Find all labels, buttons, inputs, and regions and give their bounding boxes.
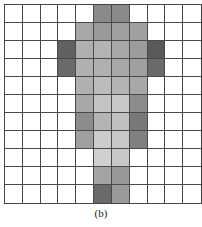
grid-cell <box>112 23 130 41</box>
grid-cell <box>165 185 183 203</box>
grid-cell <box>76 113 94 131</box>
grid-cell <box>41 131 59 149</box>
grid-cell <box>94 5 112 23</box>
grid-cell <box>41 5 59 23</box>
grid-cell <box>41 149 59 167</box>
grid-cell <box>130 5 148 23</box>
grid-cell <box>112 167 130 185</box>
grid-cell <box>5 185 23 203</box>
grid-cell <box>148 5 166 23</box>
grid-cell <box>58 77 76 95</box>
grid-cell <box>183 59 201 77</box>
grid-cell <box>183 131 201 149</box>
grid-cell <box>23 167 41 185</box>
grid-cell <box>165 77 183 95</box>
grid-cell <box>183 113 201 131</box>
grid-cell <box>5 95 23 113</box>
grid-cell <box>148 185 166 203</box>
grid-cell <box>76 185 94 203</box>
grid-cell <box>112 113 130 131</box>
grid-cell <box>165 5 183 23</box>
grid-cell <box>5 5 23 23</box>
grid-cell <box>23 131 41 149</box>
grid-cell <box>58 185 76 203</box>
grid-cell <box>183 5 201 23</box>
grid-cell <box>148 23 166 41</box>
grid-cell <box>94 23 112 41</box>
grid-cell <box>112 131 130 149</box>
grid-cell <box>148 59 166 77</box>
grid-cell <box>112 185 130 203</box>
grid-cell <box>183 185 201 203</box>
grid-cell <box>94 131 112 149</box>
grid-cell <box>23 185 41 203</box>
grid-cell <box>130 149 148 167</box>
grid-cell <box>5 41 23 59</box>
grid-cell <box>130 77 148 95</box>
grid-cell <box>183 23 201 41</box>
grid-cell <box>183 95 201 113</box>
grid-cell <box>76 77 94 95</box>
grid-cell <box>41 113 59 131</box>
grid-cell <box>23 41 41 59</box>
grid-cell <box>23 59 41 77</box>
grid-cell <box>94 41 112 59</box>
grid-cell <box>112 149 130 167</box>
grid-cell <box>23 113 41 131</box>
grid-cell <box>58 95 76 113</box>
figure-caption: (b) <box>0 207 202 219</box>
grid-cell <box>5 113 23 131</box>
grid-cell <box>130 113 148 131</box>
grid-cell <box>148 41 166 59</box>
grid-cell <box>165 59 183 77</box>
grid-cell <box>130 23 148 41</box>
grid-cell <box>41 77 59 95</box>
grid-cell <box>76 131 94 149</box>
grid-cell <box>165 131 183 149</box>
grid-cell <box>76 5 94 23</box>
grid-cell <box>76 59 94 77</box>
grid-cell <box>58 41 76 59</box>
grid-cell <box>5 167 23 185</box>
grid-cell <box>94 95 112 113</box>
grid-cell <box>23 5 41 23</box>
grid-cell <box>130 167 148 185</box>
grid-cell <box>5 59 23 77</box>
grid-cell <box>130 59 148 77</box>
grid-cell <box>58 59 76 77</box>
grid-cell <box>183 41 201 59</box>
grid-cell <box>148 167 166 185</box>
grid-cell <box>112 41 130 59</box>
grid-cell <box>23 95 41 113</box>
grid-cell <box>23 77 41 95</box>
grid-cell <box>41 59 59 77</box>
grid-cell <box>183 149 201 167</box>
grid-cell <box>148 95 166 113</box>
grid-cell <box>94 149 112 167</box>
grid-cell <box>130 185 148 203</box>
grid-cell <box>148 131 166 149</box>
grid-cell <box>112 5 130 23</box>
grid-cell <box>76 23 94 41</box>
grid-cell <box>130 95 148 113</box>
grid-cell <box>165 113 183 131</box>
grid-cell <box>112 59 130 77</box>
grid-cell <box>130 41 148 59</box>
grid-cell <box>94 77 112 95</box>
grid-cell <box>148 77 166 95</box>
grid-cell <box>23 23 41 41</box>
grid-cell <box>112 95 130 113</box>
grid-cell <box>76 167 94 185</box>
grid-cell <box>58 167 76 185</box>
grid-cell <box>5 77 23 95</box>
grid-cell <box>41 23 59 41</box>
grid-cell <box>165 167 183 185</box>
grid-cell <box>76 149 94 167</box>
grid-cell <box>58 113 76 131</box>
grid-cell <box>94 59 112 77</box>
grid-cell <box>94 113 112 131</box>
grid-cell <box>58 131 76 149</box>
grid-cell <box>5 131 23 149</box>
grid-cell <box>183 167 201 185</box>
grid-cell <box>23 149 41 167</box>
